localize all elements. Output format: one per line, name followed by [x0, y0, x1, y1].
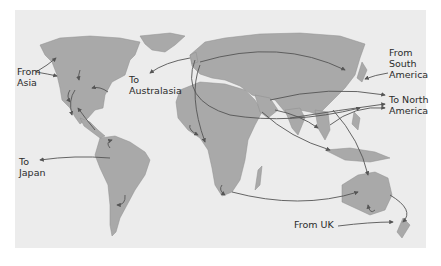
label-line: America	[389, 105, 429, 116]
label-line: To	[129, 74, 182, 85]
label-from-asia: FromAsia	[17, 66, 41, 88]
label-line: From UK	[294, 219, 334, 230]
world-map	[0, 0, 441, 266]
label-to-australasia: ToAustralasia	[129, 74, 182, 96]
label-to-japan: ToJapan	[19, 156, 46, 178]
label-line: Australasia	[129, 85, 182, 96]
label-from-south-america: FromSouthAmerica	[389, 47, 428, 80]
label-line: To North	[389, 94, 429, 105]
label-to-north-america: To NorthAmerica	[389, 94, 429, 116]
label-line: America	[389, 69, 428, 80]
label-line: South	[389, 58, 428, 69]
label-line: From	[17, 66, 41, 77]
label-line: From	[389, 47, 428, 58]
label-line: To	[19, 156, 46, 167]
label-line: Japan	[19, 167, 46, 178]
label-line: Asia	[17, 77, 41, 88]
label-from-uk: From UK	[294, 219, 334, 230]
